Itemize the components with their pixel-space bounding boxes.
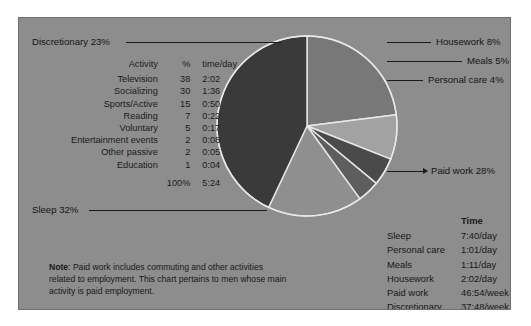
time-row-label: Sleep xyxy=(387,229,461,243)
callout-meals: Meals 5% xyxy=(467,55,509,66)
cell-time: 0:22 xyxy=(202,110,237,122)
leader-line-sleep xyxy=(89,210,267,211)
time-header-row: Time xyxy=(387,213,509,229)
discretionary-activity-table: Activity % time/day Television 38 2:02 S… xyxy=(71,58,237,189)
cell-activity: Socializing xyxy=(71,85,167,97)
table-header-row: Activity % time/day xyxy=(71,58,237,73)
cell-total-label xyxy=(71,171,167,189)
cell-activity: Reading xyxy=(71,110,167,122)
list-item: Housework 2:02/day xyxy=(387,271,509,285)
cell-percent: 1 xyxy=(167,158,203,170)
callout-housework: Housework 8% xyxy=(436,36,501,47)
time-row-value: 1:11/day xyxy=(461,257,509,271)
time-row-label: Paid work xyxy=(387,285,461,299)
pie-slice-discretionary xyxy=(307,36,396,126)
cell-activity: Voluntary xyxy=(71,122,167,134)
callout-paid-work: Paid work 28% xyxy=(431,165,495,176)
cell-percent: 2 xyxy=(167,134,203,146)
leader-line-paid-work xyxy=(387,171,425,172)
header-percent: % xyxy=(167,58,203,73)
time-header-blank xyxy=(387,213,461,229)
time-row-label: Personal care xyxy=(387,243,461,257)
note-prefix: Note xyxy=(49,262,68,272)
time-row-value: 7:40/day xyxy=(461,229,509,243)
chart-screenshot: Discretionary 23% Activity % time/day Te… xyxy=(0,0,531,326)
cell-time: 0:17 xyxy=(202,122,237,134)
cell-time: 0:05 xyxy=(202,146,237,158)
callout-sleep: Sleep 32% xyxy=(32,204,78,215)
cell-time: 0:08 xyxy=(202,134,237,146)
cell-percent: 2 xyxy=(167,146,203,158)
table-row: Other passive 2 0:05 xyxy=(71,146,237,158)
cell-activity: Television xyxy=(71,73,167,85)
time-row-value: 46:54/week xyxy=(461,285,509,299)
time-summary-table: Time Sleep 7:40/day Personal care 1:01/d… xyxy=(387,213,509,310)
leader-arrow-paid-work xyxy=(423,168,428,174)
time-row-value: 1:01/day xyxy=(461,243,509,257)
cell-activity: Education xyxy=(71,158,167,170)
table-row: Voluntary 5 0:17 xyxy=(71,122,237,134)
cell-activity: Entertainment events xyxy=(71,134,167,146)
cell-activity: Sports/Active xyxy=(71,97,167,109)
cell-percent: 7 xyxy=(167,110,203,122)
table-row: Reading 7 0:22 xyxy=(71,110,237,122)
list-item: Meals 1:11/day xyxy=(387,257,509,271)
cell-total-percent: 100% xyxy=(167,171,203,189)
table-row: Education 1 0:04 xyxy=(71,158,237,170)
header-time-per-day: time/day xyxy=(202,58,237,73)
list-item: Personal care 1:01/day xyxy=(387,243,509,257)
time-row-label: Meals xyxy=(387,257,461,271)
leader-line-discretionary xyxy=(126,42,281,43)
cell-total-time: 5:24 xyxy=(202,171,237,189)
cell-activity: Other passive xyxy=(71,146,167,158)
table-row: Entertainment events 2 0:08 xyxy=(71,134,237,146)
table-row: Socializing 30 1:36 xyxy=(71,85,237,97)
chart-note: Note: Paid work includes commuting and o… xyxy=(49,261,291,298)
cell-percent: 15 xyxy=(167,97,203,109)
cell-percent: 38 xyxy=(167,73,203,85)
time-row-value: 2:02/day xyxy=(461,271,509,285)
list-item: Discretionary 37:48/week xyxy=(387,300,509,310)
leader-line-housework xyxy=(387,42,431,43)
leader-line-personal-care xyxy=(387,80,423,81)
note-body: : Paid work includes commuting and other… xyxy=(49,262,286,296)
time-row-label: Discretionary xyxy=(387,300,461,310)
cell-percent: 30 xyxy=(167,85,203,97)
chart-panel: Discretionary 23% Activity % time/day Te… xyxy=(18,17,511,310)
header-activity: Activity xyxy=(71,58,167,73)
cell-percent: 5 xyxy=(167,122,203,134)
list-item: Paid work 46:54/week xyxy=(387,285,509,299)
cell-time: 1:36 xyxy=(202,85,237,97)
table-row: Sports/Active 15 0:50 xyxy=(71,97,237,109)
callout-discretionary: Discretionary 23% xyxy=(32,36,110,47)
cell-time: 0:50 xyxy=(202,97,237,109)
time-header-time: Time xyxy=(461,213,509,229)
time-row-label: Housework xyxy=(387,271,461,285)
table-row: Television 38 2:02 xyxy=(71,73,237,85)
callout-personal-care: Personal care 4% xyxy=(428,74,504,85)
cell-time: 2:02 xyxy=(202,73,237,85)
cell-time: 0:04 xyxy=(202,158,237,170)
list-item: Sleep 7:40/day xyxy=(387,229,509,243)
leader-line-meals xyxy=(387,61,462,62)
table-total-row: 100% 5:24 xyxy=(71,171,237,189)
time-row-value: 37:48/week xyxy=(461,300,509,310)
